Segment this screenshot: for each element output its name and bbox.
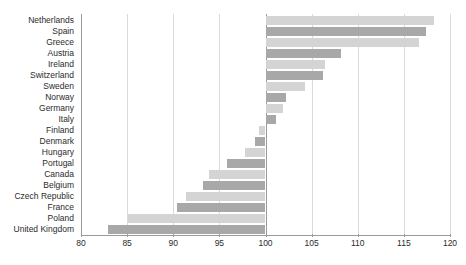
bar-row: [81, 103, 450, 114]
x-axis-tick-label: 80: [76, 238, 85, 248]
x-axis-tick-label: 100: [258, 238, 272, 248]
y-axis-label: Greece: [0, 37, 78, 48]
bar-row: [81, 147, 450, 158]
x-axis-tick-label: 85: [122, 238, 131, 248]
bar: [259, 126, 265, 135]
bar: [266, 93, 286, 102]
bar: [128, 214, 265, 223]
bar-row: [81, 191, 450, 202]
x-axis-tick: [450, 234, 451, 237]
bar-row: [81, 202, 450, 213]
x-axis-tick-label: 105: [305, 238, 319, 248]
x-axis-tick: [404, 234, 405, 237]
bar-row: [81, 81, 450, 92]
x-axis-tick: [312, 234, 313, 237]
bar: [209, 170, 265, 179]
bar: [266, 16, 435, 25]
x-axis-tick: [81, 234, 82, 237]
bar-row: [81, 15, 450, 26]
x-axis-tick-label: 120: [443, 238, 457, 248]
bar-row: [81, 70, 450, 81]
x-axis-tick-label: 90: [169, 238, 178, 248]
x-axis-tick-label: 95: [215, 238, 224, 248]
bar-row: [81, 180, 450, 191]
gridline: [450, 14, 451, 236]
bar: [266, 115, 276, 124]
bar-row: [81, 48, 450, 59]
y-axis-label: Austria: [0, 48, 78, 59]
bar-row: [81, 125, 450, 136]
y-axis-label: Switzerland: [0, 70, 78, 81]
bar: [266, 104, 284, 113]
y-axis-category-labels: NetherlandsSpainGreeceAustriaIrelandSwit…: [0, 15, 78, 235]
x-axis-tick: [358, 234, 359, 237]
bar-row: [81, 136, 450, 147]
bar: [177, 203, 266, 212]
y-axis-label: Norway: [0, 92, 78, 103]
y-axis-label: Sweden: [0, 81, 78, 92]
y-axis-label: Ireland: [0, 59, 78, 70]
y-axis-label: Portugal: [0, 158, 78, 169]
y-axis-label: Finland: [0, 125, 78, 136]
y-axis-label: Hungary: [0, 147, 78, 158]
bar: [266, 71, 323, 80]
x-axis-tick-label: 110: [351, 238, 365, 248]
y-axis-label: Germany: [0, 103, 78, 114]
bar-row: [81, 169, 450, 180]
bar-row: [81, 92, 450, 103]
bar: [227, 159, 266, 168]
bar: [186, 192, 265, 201]
x-axis-tick: [219, 234, 220, 237]
bar: [108, 225, 266, 234]
bar: [255, 137, 265, 146]
bar: [203, 181, 266, 190]
bar: [266, 27, 427, 36]
bar-series: [81, 15, 450, 235]
bar-row: [81, 213, 450, 224]
bar-row: [81, 59, 450, 70]
x-axis-tick: [173, 234, 174, 237]
bar-row: [81, 114, 450, 125]
y-axis-label: Canada: [0, 169, 78, 180]
y-axis-label: Belgium: [0, 180, 78, 191]
y-axis-label: France: [0, 202, 78, 213]
bar-row: [81, 26, 450, 37]
y-axis-label: United Kingdom: [0, 224, 78, 235]
y-axis-label: Poland: [0, 213, 78, 224]
x-axis-tick-label: 115: [397, 238, 411, 248]
bar: [266, 38, 419, 47]
bar: [266, 49, 342, 58]
bar-row: [81, 37, 450, 48]
y-axis-label: Spain: [0, 26, 78, 37]
bar-chart: NetherlandsSpainGreeceAustriaIrelandSwit…: [0, 0, 466, 265]
y-axis-label: Netherlands: [0, 15, 78, 26]
bar: [266, 60, 326, 69]
y-axis-label: Czech Republic: [0, 191, 78, 202]
y-axis-label: Denmark: [0, 136, 78, 147]
bar: [245, 148, 265, 157]
bar: [266, 82, 306, 91]
x-axis-tick: [266, 234, 267, 237]
x-axis-tick-labels: 80859095100105110115120: [81, 238, 450, 252]
y-axis-label: Italy: [0, 114, 78, 125]
plot-area: [81, 14, 450, 236]
bar-row: [81, 158, 450, 169]
x-axis-tick: [127, 234, 128, 237]
